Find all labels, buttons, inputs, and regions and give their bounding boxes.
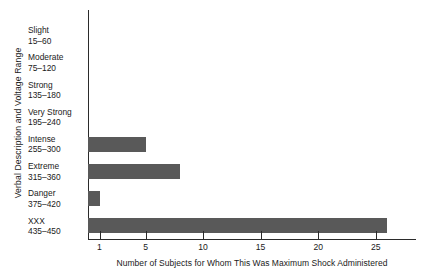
category-label: Intense255–300 [28,134,86,155]
category-voltage-range: 315–360 [28,172,86,182]
category-voltage-range: 135–180 [28,90,86,100]
category-label: Moderate75–120 [28,52,86,73]
category-name: Slight [28,25,86,35]
category-name: Moderate [28,52,86,62]
category-label: XXX435–450 [28,216,86,237]
category-label: Danger375–420 [28,188,86,209]
x-tick-mark [261,231,262,239]
x-tick-label: 20 [306,242,330,252]
x-tick-label: 10 [191,242,215,252]
x-tick-label: 1 [88,242,112,252]
category-name: XXX [28,216,86,226]
category-name: Strong [28,80,86,90]
category-label: Very Strong195–240 [28,107,86,128]
category-voltage-range: 435–450 [28,226,86,236]
bar [88,164,180,179]
category-label: Slight15–60 [28,25,86,46]
category-label: Extreme315–360 [28,161,86,182]
x-tick-mark [100,231,101,239]
category-voltage-range: 375–420 [28,199,86,209]
category-voltage-range: 195–240 [28,117,86,127]
category-label: Strong135–180 [28,80,86,101]
category-voltage-range: 255–300 [28,144,86,154]
bar-chart: Verbal Description and Voltage Range Sli… [0,0,427,280]
category-voltage-range: 15–60 [28,36,86,46]
x-tick-mark [146,231,147,239]
plot-area: 1510152025 [88,10,416,240]
x-axis-line [88,239,416,240]
category-name: Extreme [28,161,86,171]
category-name: Intense [28,134,86,144]
bar [88,191,100,206]
x-tick-label: 25 [364,242,388,252]
x-tick-mark [376,231,377,239]
category-label-column: Slight15–60Moderate75–120Strong135–180Ve… [28,10,86,228]
x-tick-label: 5 [134,242,158,252]
x-axis-title: Number of Subjects for Whom This Was Max… [88,258,416,268]
category-voltage-range: 75–120 [28,63,86,73]
x-tick-label: 15 [249,242,273,252]
category-name: Very Strong [28,107,86,117]
bar [88,137,146,152]
y-axis-title: Verbal Description and Voltage Range [13,23,23,223]
category-name: Danger [28,188,86,198]
bar [88,218,387,233]
x-tick-mark [318,231,319,239]
x-tick-mark [203,231,204,239]
